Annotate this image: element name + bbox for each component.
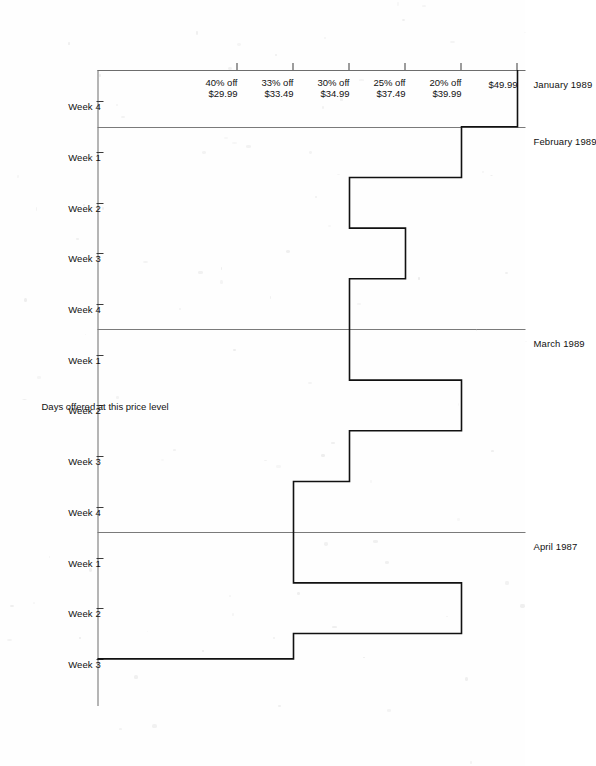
price-tick-2	[404, 63, 405, 70]
week-label-0: Week 4	[68, 101, 101, 112]
scan-speck	[328, 225, 331, 227]
scan-speck	[229, 595, 231, 597]
scan-speck	[224, 137, 228, 139]
plot-area: $49.9920% off$39.9925% off$37.4930% off$…	[97, 70, 497, 706]
price-tick-5	[236, 63, 237, 70]
scan-speck	[278, 705, 281, 707]
scan-speck	[322, 106, 324, 109]
scan-speck	[297, 592, 300, 595]
week-label-9: Week 1	[68, 558, 101, 569]
scan-speck	[198, 271, 203, 274]
month-label-0: January 1989	[533, 79, 592, 90]
week-label-1: Week 1	[68, 152, 101, 163]
scan-speck	[387, 709, 391, 712]
scan-speck	[524, 32, 527, 33]
scan-speck	[373, 540, 378, 542]
scan-speck	[119, 728, 122, 729]
scan-speck	[422, 5, 426, 6]
scan-speck	[505, 581, 509, 584]
scan-speck	[457, 518, 461, 521]
scan-speck	[17, 175, 19, 178]
value-axis-title: Days offered at this price level	[41, 401, 168, 412]
month-label-1: February 1989	[533, 136, 596, 147]
price-tick-3	[348, 63, 349, 70]
week-label-4: Week 4	[68, 304, 101, 315]
scan-speck	[359, 79, 364, 80]
price-tick-1	[460, 63, 461, 70]
scan-speck	[161, 459, 164, 461]
scan-speck	[90, 156, 93, 159]
scan-speck	[232, 142, 237, 144]
scan-speck	[520, 604, 525, 608]
scan-speck	[233, 349, 236, 351]
scan-speck	[324, 542, 328, 546]
week-label-8: Week 4	[68, 507, 101, 518]
month-label-3: April 1987	[533, 541, 577, 552]
scan-speck	[121, 116, 125, 118]
scan-speck	[525, 341, 527, 342]
scan-speck	[99, 74, 101, 76]
scan-speck	[340, 98, 343, 100]
scan-speck	[397, 2, 399, 5]
scan-speck	[179, 308, 181, 310]
scan-speck	[385, 561, 389, 564]
scan-speck	[315, 196, 317, 198]
scan-speck	[370, 480, 372, 483]
price-tick-0	[516, 63, 517, 70]
scan-speck	[476, 329, 477, 330]
week-label-3: Week 3	[68, 253, 101, 264]
scan-speck	[246, 145, 250, 148]
scan-speck	[202, 151, 206, 154]
scan-speck	[402, 19, 406, 21]
scan-speck	[446, 616, 447, 617]
week-label-11: Week 3	[68, 659, 101, 670]
price-tick-4	[292, 63, 293, 70]
scan-speck	[273, 637, 275, 639]
scan-speck	[79, 637, 81, 639]
scan-speck	[116, 396, 119, 399]
scan-speck	[152, 724, 157, 728]
week-label-5: Week 1	[68, 355, 101, 366]
scan-speck	[90, 408, 94, 411]
scan-speck	[286, 250, 290, 253]
step-series-path	[97, 70, 525, 706]
scan-speck	[196, 31, 198, 35]
scan-speck	[470, 761, 472, 764]
week-label-10: Week 2	[68, 608, 101, 619]
scan-speck	[237, 43, 241, 46]
scan-speck	[89, 568, 92, 572]
scan-speck	[357, 303, 361, 305]
scan-speck	[202, 650, 204, 652]
month-label-2: March 1989	[533, 338, 584, 349]
scan-speck	[418, 277, 419, 280]
week-label-7: Week 3	[68, 456, 101, 467]
scan-speck	[134, 675, 138, 679]
scan-speck	[37, 376, 42, 379]
scan-speck	[276, 465, 280, 468]
